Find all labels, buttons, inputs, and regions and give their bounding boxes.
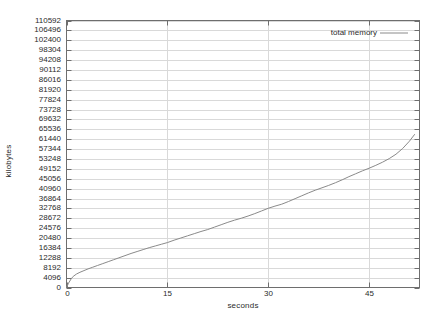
- total-memory-line: [67, 134, 415, 287]
- x-axis-tick-label: 45: [365, 290, 374, 298]
- horizontal-gridlines: [67, 22, 420, 279]
- x-axis-tick-label: 30: [264, 290, 273, 298]
- x-axis-tick-label: 15: [163, 290, 172, 298]
- x-axis-title: seconds: [66, 301, 420, 310]
- legend-entry-total-memory: total memory: [331, 29, 377, 37]
- x-axis-tick-label: 0: [65, 290, 69, 298]
- plot-area: [0, 0, 435, 322]
- memory-usage-chart: kilobytes 040968192122881638420480245762…: [0, 0, 435, 322]
